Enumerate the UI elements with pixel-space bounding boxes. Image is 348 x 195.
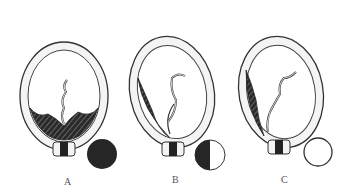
figure-canvas: [0, 0, 348, 195]
panel-label-a: A: [64, 176, 71, 187]
panel-b-diagram: [119, 28, 224, 156]
indicator-half-circle-b: [195, 140, 225, 170]
panel-c-diagram: [230, 30, 332, 155]
indicator-empty-circle-c: [304, 138, 332, 166]
panel-label-c: C: [281, 174, 288, 185]
panel-a-diagram: [20, 42, 108, 156]
indicator-full-circle-a: [87, 139, 117, 169]
panel-label-b: B: [172, 174, 179, 185]
